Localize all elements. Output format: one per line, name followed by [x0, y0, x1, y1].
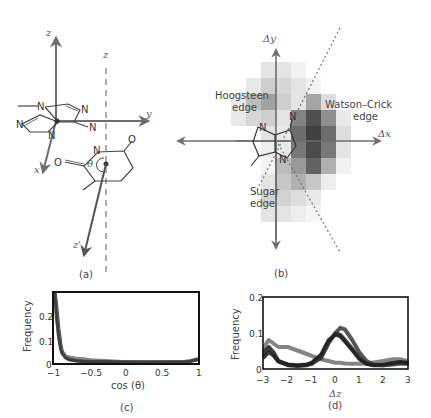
- panel-a: z z y x N N N N N N: [16, 27, 152, 280]
- data-series-line: [55, 294, 197, 362]
- xtick: −2: [280, 375, 293, 385]
- ytick: 0.1: [249, 329, 263, 339]
- heatmap-cell: [321, 110, 336, 126]
- heatmap-cell: [276, 94, 291, 110]
- heatmap-cell: [306, 190, 321, 206]
- panel-d-caption: (d): [328, 400, 342, 411]
- heatmap-cell: [291, 190, 306, 206]
- data-series-line: [264, 340, 407, 364]
- hoogsteen-edge-label: edge: [232, 102, 257, 113]
- atom-n: N: [289, 111, 296, 122]
- heatmap-cell: [306, 174, 321, 190]
- atom-n: N: [89, 122, 96, 133]
- heatmap-cell: [336, 142, 351, 158]
- xtick: −3: [256, 375, 269, 385]
- atom-n: N: [81, 104, 88, 115]
- xtick: −1: [304, 375, 317, 385]
- heatmap-cell: [321, 126, 336, 142]
- atom-n: N: [279, 154, 286, 165]
- x-axis-title: cos (θ): [111, 380, 145, 391]
- panel-a-caption: (a): [79, 269, 93, 280]
- x-axis-title: Δz: [328, 388, 342, 399]
- purine-molecule: [18, 104, 88, 132]
- atom-n: N: [93, 145, 100, 156]
- z-dashed-label: z: [102, 49, 109, 60]
- xtick: 0.5: [155, 368, 169, 378]
- ytick: 0: [256, 365, 262, 375]
- heatmap-cell: [336, 158, 351, 174]
- y-axis-label: y: [145, 108, 152, 119]
- atom-o: O: [128, 134, 136, 145]
- watson-crick-label: Watson–Crick: [325, 99, 392, 110]
- watson-crick-edge-label: edge: [353, 111, 378, 122]
- heatmap-cell: [306, 110, 321, 126]
- atom-n: N: [48, 130, 55, 141]
- xtick: −0.5: [80, 368, 102, 378]
- data-series-line: [55, 294, 197, 362]
- data-series-line: [55, 294, 197, 362]
- atom-n: N: [37, 101, 44, 112]
- z-prime-label: z': [72, 239, 81, 250]
- heatmap-cell: [291, 62, 306, 78]
- heatmap-cell: [291, 94, 306, 110]
- angle-arc: [96, 158, 104, 172]
- origin-dot: [55, 119, 60, 124]
- xtick: −1: [47, 368, 60, 378]
- heatmap-cell: [321, 142, 336, 158]
- panel-d: 0.2 0.1 0 −3 −2 −1 0 1 2 3 Frequency Δz …: [230, 293, 411, 411]
- heatmap-cell: [261, 142, 276, 158]
- xtick: 1: [196, 368, 202, 378]
- ytick: 0.2: [249, 293, 263, 303]
- atom-n: N: [259, 122, 266, 133]
- dx-axis-label: Δx: [377, 128, 391, 139]
- heatmap-cell: [306, 126, 321, 142]
- panel-b-caption: (b): [274, 268, 288, 279]
- heatmap-cell: [291, 206, 306, 222]
- panel-b: Δy Δx N N N Hoogsteen edge Watson–Crick …: [178, 28, 392, 279]
- y-axis-title: Frequency: [230, 308, 241, 360]
- plot-c-curves: [55, 294, 197, 362]
- heatmap-cell: [261, 158, 276, 174]
- xtick: 2: [380, 375, 386, 385]
- heatmap-cell: [336, 126, 351, 142]
- heatmap-cell: [336, 110, 351, 126]
- heatmap-cell: [306, 206, 321, 222]
- atom-o: O: [54, 157, 62, 168]
- xtick: 1: [356, 375, 362, 385]
- plot-c-frame: [53, 292, 199, 364]
- y-axis-title: Frequency: [22, 300, 33, 352]
- panel-c-caption: (c): [120, 402, 133, 413]
- x-axis-label: x: [34, 164, 40, 175]
- plot-d-curves: [264, 328, 407, 366]
- heatmap-cell: [306, 158, 321, 174]
- xtick: 3: [405, 375, 411, 385]
- heatmap-cell: [291, 78, 306, 94]
- figure-canvas: z z y x N N N N N N: [0, 0, 431, 418]
- xtick: 0: [332, 375, 338, 385]
- ytick: 0.2: [39, 312, 53, 322]
- sugar-edge-label: edge: [250, 198, 275, 209]
- heatmap-grid: [231, 62, 351, 222]
- heatmap-cell: [321, 174, 336, 190]
- sugar-label: Sugar: [250, 186, 280, 197]
- heatmap-cell: [321, 158, 336, 174]
- heatmap-cell: [261, 62, 276, 78]
- z-axis-label: z: [45, 27, 52, 38]
- dy-axis-label: Δy: [262, 33, 276, 44]
- ytick: 0.1: [39, 337, 53, 347]
- heatmap-cell: [306, 142, 321, 158]
- heatmap-cell: [291, 158, 306, 174]
- atom-n: N: [16, 119, 23, 130]
- hoogsteen-label: Hoogsteen: [215, 90, 269, 101]
- heatmap-cell: [276, 206, 291, 222]
- theta-label: θ: [87, 158, 93, 169]
- heatmap-cell: [276, 78, 291, 94]
- xtick: 0: [123, 368, 129, 378]
- z-prime-arrow: [84, 164, 106, 255]
- panel-c: 0.2 0.1 0 −1 −0.5 0 0.5 1 Frequency cos …: [22, 292, 202, 413]
- heatmap-cell: [276, 62, 291, 78]
- heatmap-cell: [306, 94, 321, 110]
